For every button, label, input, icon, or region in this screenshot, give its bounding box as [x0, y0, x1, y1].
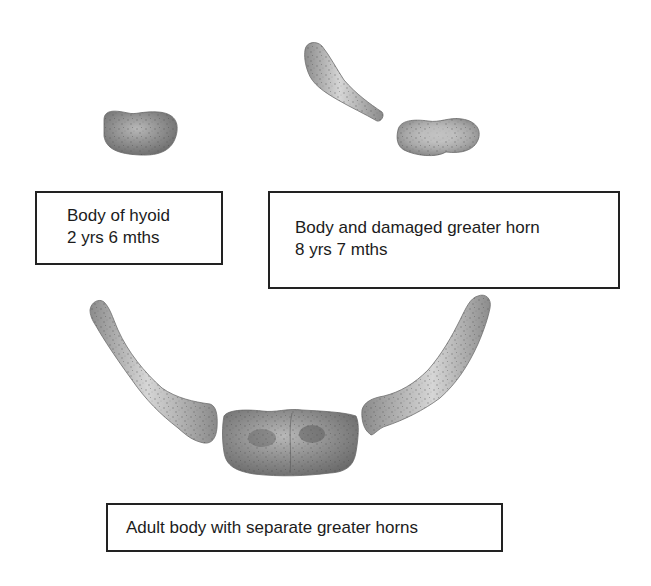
label-title: Body and damaged greater horn [295, 217, 618, 239]
adult-left-greater-horn [90, 300, 217, 443]
child-greater-horn [305, 43, 383, 122]
label-box-child-hyoid: Body and damaged greater horn 8 yrs 7 mt… [268, 191, 620, 289]
adult-hyoid-body [223, 410, 359, 476]
adult-right-greater-horn [362, 295, 491, 435]
hyoid-development-figure: Body of hyoid 2 yrs 6 mths Body and dama… [0, 0, 651, 586]
label-age: 2 yrs 6 mths [67, 227, 221, 249]
bone-illustrations [0, 0, 651, 586]
label-box-young-hyoid: Body of hyoid 2 yrs 6 mths [35, 191, 223, 265]
label-title: Body of hyoid [67, 205, 221, 227]
label-title: Adult body with separate greater horns [126, 517, 501, 539]
label-box-adult-hyoid: Adult body with separate greater horns [106, 503, 503, 552]
young-hyoid-body [104, 111, 177, 155]
child-hyoid-body [397, 119, 479, 156]
label-age: 8 yrs 7 mths [295, 239, 618, 261]
